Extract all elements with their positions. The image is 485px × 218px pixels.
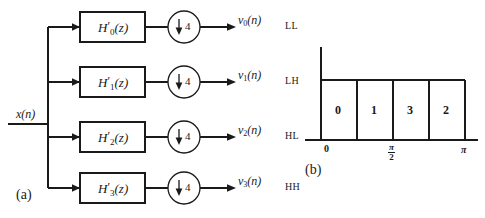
arrowhead-in-2 (72, 133, 80, 141)
subband-tag-ll: LL (285, 21, 298, 31)
downsampler-circle-1 (168, 66, 200, 98)
band-number-3: 2 (443, 104, 449, 116)
subband-tag-lh: LH (285, 76, 299, 86)
output-label-2: v2(n) (238, 124, 261, 138)
subband-tag-hh: HH (285, 182, 300, 192)
filter-arg-1: (z) (115, 75, 129, 90)
band-number-2: 3 (407, 104, 413, 116)
arrowhead-in-1 (72, 78, 80, 86)
arrowhead-out-2 (227, 133, 236, 141)
figure-container: x(n) H′0(z) H′1(z) H′2(z) H′3(z) 4 4 4 4… (0, 0, 485, 218)
output-label-0: v0(n) (238, 14, 261, 28)
downsampler-circle-2 (168, 121, 200, 153)
filter-label-0: H′0(z) (98, 20, 128, 37)
downsampler-factor-0: 4 (185, 21, 191, 32)
arrowhead-out-0 (227, 23, 236, 31)
band-number-1: 1 (371, 104, 377, 116)
filter-label-1: H′1(z) (98, 75, 128, 92)
downsampler-circle-3 (168, 172, 200, 204)
downsampler-arrow-glyphs (176, 19, 183, 196)
panel-b-tag: (b) (305, 163, 321, 177)
filter-arg-3: (z) (115, 181, 129, 196)
output-arrowheads (227, 23, 236, 192)
branch-arrowheads (72, 23, 80, 192)
filter-label-3: H′3(z) (98, 181, 128, 198)
downsampler-circle-0 (168, 11, 200, 43)
x-tick-label-0: 0 (324, 144, 329, 154)
output-label-3: v3(n) (238, 175, 261, 189)
filter-arg-2: (z) (115, 130, 129, 145)
input-signal-label: x(n) (16, 108, 35, 120)
x-tick-label-pi-over-2: π 2 (388, 143, 395, 163)
arrowhead-in-3 (72, 184, 80, 192)
fraction-denominator: 2 (388, 153, 395, 162)
arrowhead-in-0 (72, 23, 80, 31)
filter-label-2: H′2(z) (98, 130, 128, 147)
x-tick-label-pi: π (461, 145, 466, 155)
output-label-1: v1(n) (238, 69, 261, 83)
pi-over-2-fraction: π 2 (388, 143, 395, 163)
subband-tag-hl: HL (285, 131, 299, 141)
downsampler-factor-3: 4 (185, 182, 191, 193)
downsampler-factor-1: 4 (185, 76, 191, 87)
downsampler-factor-2: 4 (185, 131, 191, 142)
panel-a-tag: (a) (16, 188, 32, 202)
filter-arg-0: (z) (115, 20, 129, 35)
band-number-0: 0 (335, 104, 341, 116)
arrowhead-out-1 (227, 78, 236, 86)
arrowhead-out-3 (227, 184, 236, 192)
